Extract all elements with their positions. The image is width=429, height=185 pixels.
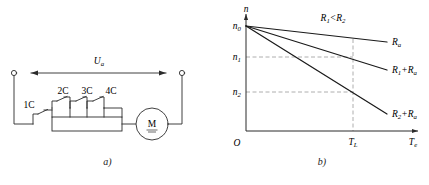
contactor-contact-4c (87, 97, 104, 109)
xtick-TL: TL (348, 137, 357, 148)
wire-right (168, 76, 182, 124)
contactor-label-1c: 1C (23, 100, 34, 110)
contactor-label-3c: 3C (81, 86, 92, 96)
series-label-R1-Ra: R1+Ra (391, 65, 417, 76)
curve-R1-Ra (246, 26, 387, 70)
supply-voltage-label: Ua (94, 56, 105, 67)
wire-tap-bridge (104, 108, 122, 117)
series-label-Ra: Ra (391, 37, 402, 48)
ytick-n0: n0 (233, 21, 242, 32)
y-axis-arrow (244, 14, 248, 20)
motor-letter: M (148, 119, 157, 129)
subfigure-caption-b: b) (215, 156, 429, 167)
contactor-contact-1c (33, 110, 52, 125)
x-axis-arrow (412, 129, 418, 133)
starting-resistor-bank (52, 117, 122, 131)
terminal-node-left (11, 70, 16, 75)
ytick-n2: n2 (233, 87, 242, 98)
terminal-node-right (179, 70, 184, 75)
ytick-n1: n1 (233, 52, 241, 63)
resistance-inequality-annotation: R1<R2 (320, 13, 346, 24)
contactor-label-4c: 4C (105, 86, 116, 96)
origin-label: O (234, 138, 241, 148)
x-axis-label: Te (409, 137, 417, 148)
y-axis-label: n (244, 4, 249, 14)
supply-voltage-arrow (31, 71, 166, 76)
contactor-label-2c: 2C (57, 86, 68, 96)
subfigure-caption-a: a) (0, 156, 215, 167)
contactor-contact-2c (52, 97, 70, 109)
contactor-contact-3c (70, 97, 87, 109)
series-label-R2-Ra: R2+Ra (391, 109, 417, 120)
